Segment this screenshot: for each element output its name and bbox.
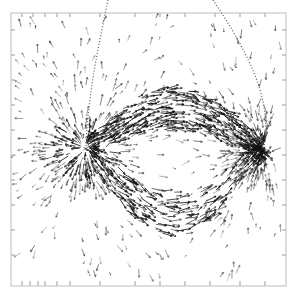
vector-arrows [11,14,281,282]
vector-field-plot [0,0,301,299]
